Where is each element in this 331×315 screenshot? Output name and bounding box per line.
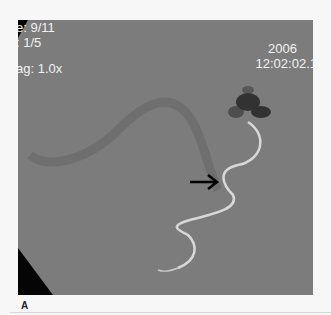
divider (10, 312, 331, 313)
overlay-frame: e: 9/11 (18, 20, 55, 35)
angiogram-image: e: 9/11 : 1/5 ag: 1.0x 2006 12:02:02.1 (18, 20, 313, 295)
panel-label: A (21, 300, 28, 311)
overlay-series: : 1/5 (18, 35, 41, 50)
overlay-magnification: ag: 1.0x (18, 61, 62, 76)
overlay-time: 12:02:02.1 (256, 56, 313, 71)
overlay-year: 2006 (268, 41, 297, 56)
